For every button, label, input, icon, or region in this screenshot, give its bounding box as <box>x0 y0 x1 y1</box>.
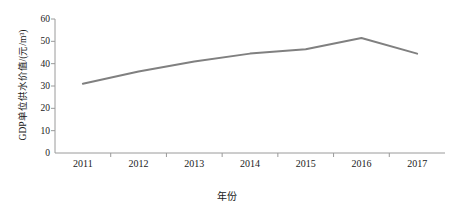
chart-container: GDP单位供水价值/(元/m³) 0102030405060 201120122… <box>0 0 454 220</box>
y-axis-ticks <box>51 19 55 131</box>
x-axis-tick-labels: 2011201220132014201520162017 <box>55 158 445 174</box>
x-tick-label: 2015 <box>278 158 334 174</box>
x-tick-label: 2012 <box>111 158 167 174</box>
data-series-group <box>83 38 417 84</box>
x-axis-title: 年份 <box>0 188 454 203</box>
x-tick-label: 2011 <box>55 158 111 174</box>
x-tick-label: 2017 <box>389 158 445 174</box>
x-tick-label: 2016 <box>334 158 390 174</box>
x-tick-label: 2013 <box>166 158 222 174</box>
series-line-gdp-unit-water-value <box>83 38 417 84</box>
x-tick-label: 2014 <box>222 158 278 174</box>
axes <box>55 19 445 153</box>
x-axis-ticks <box>111 153 390 157</box>
plot-area <box>0 0 454 220</box>
